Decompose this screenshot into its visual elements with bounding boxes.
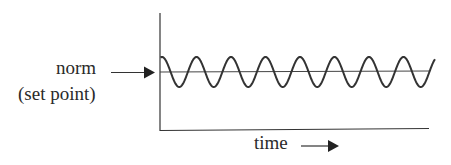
time-arrow-head — [328, 140, 339, 152]
time-axis-label: time — [254, 133, 288, 153]
set-point-line — [160, 71, 430, 72]
norm-arrow-head — [144, 67, 155, 79]
set-point-label: (set point) — [18, 84, 96, 104]
x-axis — [160, 129, 429, 131]
norm-label: norm — [44, 58, 108, 78]
